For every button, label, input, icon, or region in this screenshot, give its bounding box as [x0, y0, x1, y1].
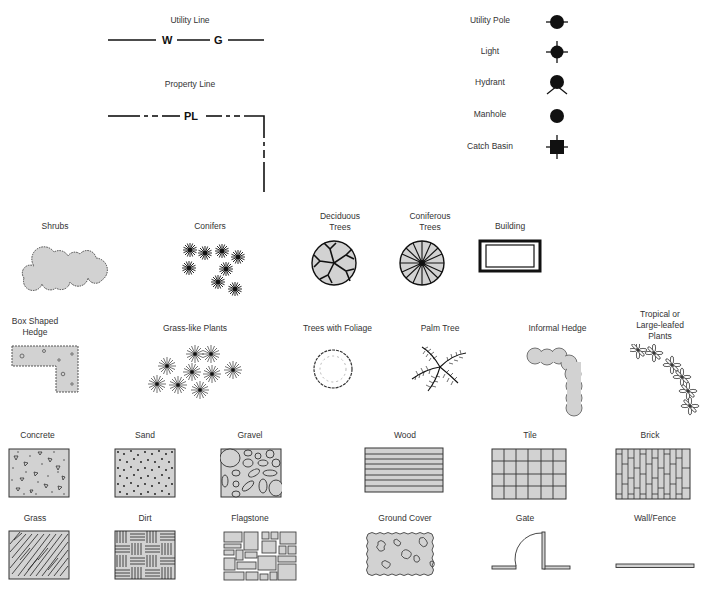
utility-pole-icon [545, 12, 569, 32]
building-label: Building [475, 221, 545, 232]
palm-tree-label: Palm Tree [405, 323, 475, 334]
manhole-icon [545, 106, 569, 126]
grass-label: Grass [10, 513, 60, 524]
utility-line-icon: W G [106, 32, 266, 48]
conifers-icon [180, 240, 260, 300]
trees-foliage-label: Trees with Foliage [295, 323, 380, 334]
property-line-label: Property Line [140, 79, 240, 90]
concrete-label: Concrete [5, 430, 70, 441]
wood-icon [364, 447, 444, 493]
informal-hedge-icon [525, 346, 591, 418]
property-code: PL [184, 110, 198, 122]
deciduous-trees-label: Deciduous Trees [300, 211, 380, 233]
hydrant-label: Hydrant [450, 77, 530, 88]
wall-fence-icon [614, 562, 696, 570]
flagstone-icon [222, 530, 300, 582]
grass-like-plants-label: Grass-like Plants [150, 323, 240, 334]
coniferous-trees-label: Coniferous Trees [390, 211, 470, 233]
shrubs-label: Shrubs [20, 221, 90, 232]
shrubs-icon [18, 240, 108, 292]
catch-basin-label: Catch Basin [450, 141, 530, 152]
gravel-icon [220, 448, 282, 498]
coniferous-tree-icon [398, 239, 446, 287]
grass-icon [8, 530, 70, 580]
grass-like-plants-icon [140, 344, 250, 400]
light-icon [545, 40, 569, 64]
building-icon [478, 239, 542, 273]
gate-icon [490, 530, 572, 574]
tile-label: Tile [505, 430, 555, 441]
ground-cover-icon [364, 530, 444, 580]
tree-foliage-icon [312, 348, 354, 390]
brick-icon [615, 448, 691, 500]
catch-basin-icon [545, 134, 569, 160]
concrete-icon [8, 448, 70, 498]
conifers-label: Conifers [175, 221, 245, 232]
informal-hedge-label: Informal Hedge [515, 323, 600, 334]
manhole-label: Manhole [450, 109, 530, 120]
wall-fence-label: Wall/Fence [615, 513, 695, 524]
utility-code-w: W [162, 34, 173, 46]
box-hedge-icon [10, 344, 82, 394]
tile-icon [491, 448, 567, 500]
sand-label: Sand [115, 430, 175, 441]
gate-label: Gate [500, 513, 550, 524]
palm-tree-icon [408, 343, 472, 393]
box-hedge-label: Box Shaped Hedge [5, 316, 65, 338]
tropical-plants-label: Tropical or Large-leafed Plants [620, 309, 700, 342]
flagstone-label: Flagstone [220, 513, 280, 524]
utility-line-label: Utility Line [140, 15, 240, 26]
wood-label: Wood [375, 430, 435, 441]
utility-code-g: G [214, 34, 223, 46]
ground-cover-label: Ground Cover [360, 513, 450, 524]
sand-icon [114, 448, 176, 498]
deciduous-tree-icon [310, 239, 358, 287]
tropical-plants-icon [630, 344, 704, 416]
property-line-icon: PL [106, 108, 270, 194]
brick-label: Brick [625, 430, 675, 441]
utility-pole-label: Utility Pole [450, 15, 530, 26]
gravel-label: Gravel [220, 430, 280, 441]
dirt-label: Dirt [115, 513, 175, 524]
light-label: Light [450, 46, 530, 57]
dirt-icon [114, 530, 176, 580]
hydrant-icon [545, 72, 569, 96]
